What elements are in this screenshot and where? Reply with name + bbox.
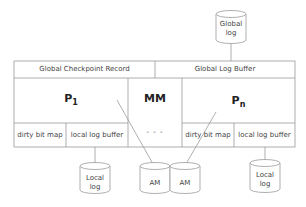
processor-subscript: 1 [72,98,78,107]
mm-label: MM [128,92,182,105]
global-log-buffer: Global Log Buffer [155,65,295,73]
am-cylinder-icon [140,163,170,194]
ellipsis-label: - - - [128,128,182,136]
global-log-line1: Global [216,20,246,29]
pn-local-log-buffer: local log buffer [234,131,295,139]
processor-p1-label: P1 [14,92,128,107]
global-log-line2: log [216,29,246,38]
local-log-line1: Local [80,174,110,183]
pn-dirty-bit-map: dirty bit map [182,131,234,139]
local-log-line2: log [250,180,280,189]
local-log-right-label: Local log [250,171,280,189]
p1-local-log-buffer: local log buffer [66,131,128,139]
global-log-label: Global log [216,20,246,38]
am-left-label: AM [140,179,170,188]
processor-pn-label: Pn [182,94,295,109]
am-right-label: AM [170,179,200,188]
processor-name: P [232,94,240,107]
local-log-line2: log [80,183,110,192]
processor-subscript: n [240,100,246,109]
local-log-line1: Local [250,171,280,180]
p1-dirty-bit-map: dirty bit map [14,131,66,139]
local-log-left-label: Local log [80,174,110,192]
am-cylinder-icon [170,163,200,194]
global-checkpoint-record: Global Checkpoint Record [14,65,155,73]
